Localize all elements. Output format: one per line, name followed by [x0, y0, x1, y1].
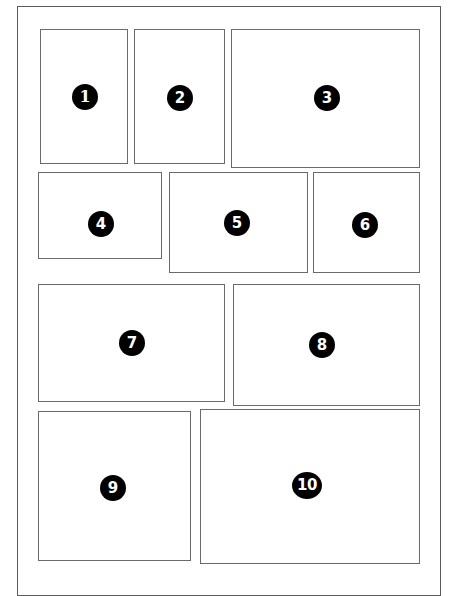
panel-2[interactable]: 2 [134, 29, 225, 164]
panel-4[interactable]: 4 [38, 172, 162, 259]
panel-number-badge-8: 8 [309, 332, 335, 358]
panel-number-badge-6: 6 [352, 212, 378, 238]
panel-3[interactable]: 3 [231, 29, 420, 168]
panel-10[interactable]: 10 [200, 409, 420, 564]
panel-number-badge-1: 1 [72, 84, 98, 110]
panel-number-badge-5: 5 [224, 210, 250, 236]
panel-8[interactable]: 8 [233, 284, 420, 406]
panel-5[interactable]: 5 [169, 172, 308, 273]
panel-number-badge-10: 10 [292, 472, 322, 499]
panel-number-badge-3: 3 [314, 85, 340, 111]
panel-7[interactable]: 7 [38, 284, 225, 402]
panel-number-badge-7: 7 [119, 330, 145, 356]
panel-number-badge-4: 4 [88, 211, 114, 237]
panel-6[interactable]: 6 [313, 172, 420, 273]
panel-9[interactable]: 9 [38, 411, 191, 561]
panel-number-badge-2: 2 [167, 85, 193, 111]
panel-1[interactable]: 1 [40, 29, 128, 164]
panel-number-badge-9: 9 [100, 475, 126, 501]
